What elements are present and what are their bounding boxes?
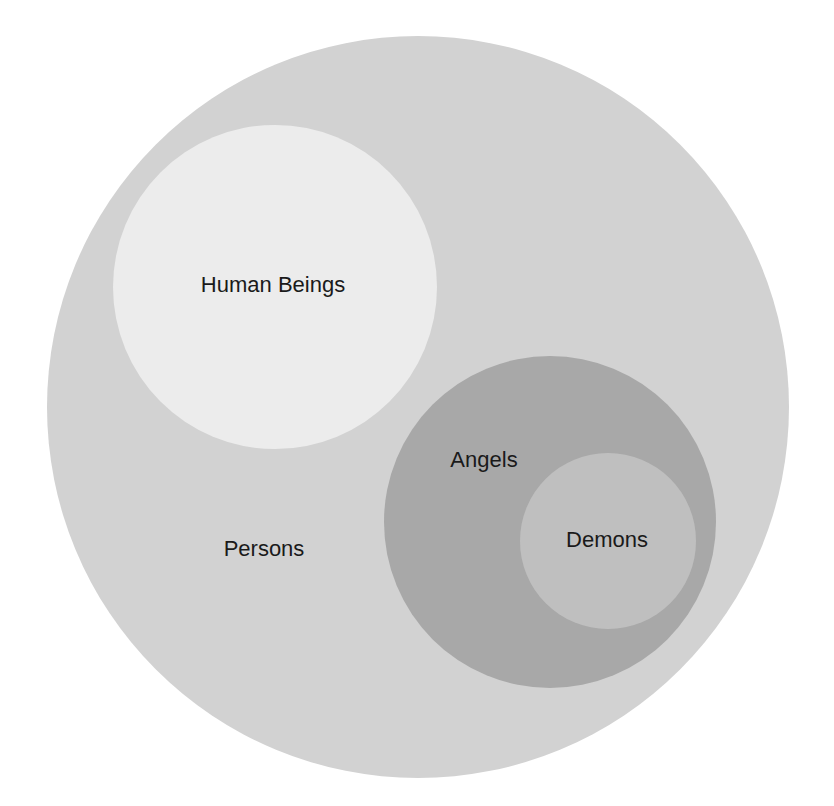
angels-label: Angels	[450, 449, 517, 471]
persons-circle	[47, 36, 789, 778]
euler-diagram: Persons Human Beings Angels Demons	[0, 0, 834, 806]
demons-label: Demons	[566, 529, 648, 551]
persons-label: Persons	[224, 538, 305, 560]
human-beings-label: Human Beings	[201, 274, 345, 296]
